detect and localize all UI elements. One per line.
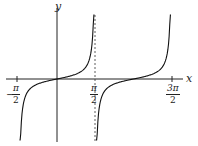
y-axis-label: y [55,1,61,12]
tangent-graph: y x − π 2 π 2 3π 2 [0,0,198,146]
tick-label-3pi-half: 3π 2 [166,84,180,105]
tick-label-pi-half: π 2 [90,84,98,105]
tick-label-neg-pi-half: π 2 [12,84,20,105]
x-axis-label: x [186,73,192,84]
plot-area [0,0,198,146]
tan-branch-2 [96,15,171,140]
